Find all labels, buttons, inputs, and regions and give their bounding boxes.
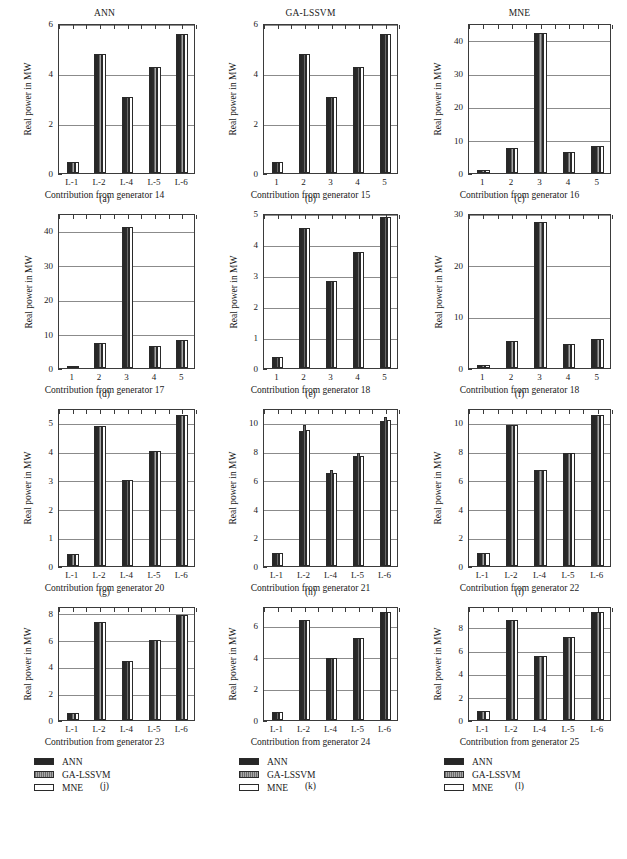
x-tick-label: L-4 bbox=[324, 570, 337, 580]
bar-mne bbox=[129, 97, 133, 173]
x-tick-label: 3 bbox=[537, 372, 542, 382]
y-tick-mark bbox=[58, 174, 62, 175]
y-tick-label: 2 bbox=[209, 533, 258, 543]
bar-mne bbox=[360, 456, 364, 566]
x-tick-label: L-1 bbox=[65, 570, 78, 580]
bar-series-container bbox=[264, 410, 397, 566]
bar-mne bbox=[333, 281, 337, 368]
bar-mne bbox=[157, 346, 161, 368]
y-tick-label: 8 bbox=[412, 447, 463, 457]
bar-series-container bbox=[264, 215, 397, 368]
chart-panel-h: Real power in MW0246810L-1L-2L-4L-5L-6Co… bbox=[209, 405, 412, 603]
x-tick-label: 5 bbox=[179, 372, 184, 382]
y-tick-label: 30 bbox=[412, 69, 463, 79]
x-tick-label: L-6 bbox=[175, 177, 188, 187]
x-tick-label: 4 bbox=[355, 177, 360, 187]
bar-group bbox=[591, 25, 603, 173]
y-tick-label: 1 bbox=[0, 533, 53, 543]
bar-group bbox=[176, 215, 188, 368]
bar-mne bbox=[157, 67, 161, 173]
bar-group bbox=[94, 410, 106, 566]
bar-mne bbox=[485, 553, 489, 566]
top-tick-mark bbox=[612, 25, 613, 29]
bar-mne bbox=[102, 343, 106, 368]
bar-mne bbox=[102, 54, 106, 174]
bar-mne bbox=[485, 365, 489, 368]
legend-label: ANN bbox=[267, 757, 288, 767]
y-tick-label: 0 bbox=[412, 562, 463, 572]
y-tick-label: 10 bbox=[0, 330, 53, 340]
y-tick-label: 8 bbox=[412, 623, 463, 633]
bar-series-container bbox=[469, 215, 610, 368]
x-tick-label: L-5 bbox=[351, 724, 364, 734]
plot-area bbox=[468, 24, 611, 174]
x-tick-label: L-2 bbox=[504, 570, 517, 580]
legend-item-ga-lssvm: GA-LSSVM bbox=[444, 768, 521, 781]
bar-mne bbox=[333, 658, 337, 720]
bar-group bbox=[506, 215, 518, 368]
bar-mne bbox=[129, 227, 133, 368]
bar-mne bbox=[571, 637, 575, 720]
y-tick-label: 2 bbox=[0, 689, 53, 699]
bar-group bbox=[122, 215, 134, 368]
bar-group bbox=[380, 608, 392, 720]
chart-panel-e: Real power in MW01234512345Contribution … bbox=[209, 210, 412, 405]
x-tick-label: L-2 bbox=[93, 177, 106, 187]
y-tick-label: 6 bbox=[0, 19, 53, 29]
legend-label: GA-LSSVM bbox=[267, 770, 316, 780]
bar-group bbox=[353, 608, 365, 720]
bar-group bbox=[534, 215, 546, 368]
bar-group bbox=[272, 215, 284, 368]
y-tick-label: 5 bbox=[209, 209, 258, 219]
bar-mne bbox=[543, 656, 547, 720]
y-tick-label: 10 bbox=[412, 312, 463, 322]
bar-group bbox=[591, 410, 603, 566]
y-tick-label: 4 bbox=[209, 240, 258, 250]
chart-panel-d: Real power in MW01020304012345Contributi… bbox=[0, 210, 209, 405]
bar-mne bbox=[387, 217, 391, 368]
bar-series-container bbox=[59, 215, 194, 368]
bar-group bbox=[534, 608, 546, 720]
x-tick-label: 3 bbox=[328, 372, 333, 382]
bar-mne bbox=[543, 470, 547, 566]
bar-group bbox=[380, 25, 392, 173]
bar-group bbox=[591, 608, 603, 720]
y-axis-label: Real power in MW bbox=[226, 214, 240, 369]
chart-panel-c: MNEReal power in MW01020304012345Contrib… bbox=[412, 8, 627, 210]
y-tick-label: 0 bbox=[209, 364, 258, 374]
bar-group bbox=[67, 25, 79, 173]
legend-label: ANN bbox=[62, 757, 83, 767]
y-tick-mark bbox=[468, 369, 472, 370]
y-tick-label: 0 bbox=[209, 716, 258, 726]
bar-mne bbox=[279, 712, 283, 720]
bar-mne bbox=[571, 152, 575, 173]
bar-group bbox=[591, 215, 603, 368]
chart-panel-i: Real power in MW0246810L-1L-2L-4L-5L-6Co… bbox=[412, 405, 627, 603]
bar-group bbox=[176, 25, 188, 173]
x-tick-label: 4 bbox=[566, 372, 571, 382]
bar-mne bbox=[184, 34, 188, 173]
plot-area bbox=[468, 214, 611, 369]
panel-caption: (j) bbox=[0, 781, 209, 791]
chart-panel-l: Real power in MW02468L-1L-2L-4L-5L-6Cont… bbox=[412, 603, 627, 803]
x-tick-label: 3 bbox=[537, 177, 542, 187]
y-axis-label: Real power in MW bbox=[21, 24, 35, 174]
bar-mne bbox=[75, 366, 79, 368]
bar-mne bbox=[333, 97, 337, 173]
figure-panel-grid: ANNReal power in MW0246L-1L-2L-4L-5L-6Co… bbox=[0, 0, 627, 859]
legend-label: ANN bbox=[472, 757, 493, 767]
y-axis-label: Real power in MW bbox=[431, 409, 445, 567]
bar-group bbox=[67, 410, 79, 566]
y-tick-label: 20 bbox=[0, 295, 53, 305]
y-tick-label: 10 bbox=[209, 418, 258, 428]
bar-group bbox=[94, 25, 106, 173]
bar-mne bbox=[184, 415, 188, 566]
x-tick-label: L-4 bbox=[533, 570, 546, 580]
bar-group bbox=[563, 215, 575, 368]
y-tick-label: 2 bbox=[0, 505, 53, 515]
bar-series-container bbox=[264, 608, 397, 720]
panel-caption: (a) bbox=[0, 194, 209, 204]
y-tick-label: 0 bbox=[0, 364, 53, 374]
top-tick-mark bbox=[196, 215, 197, 219]
x-axis-label: Contribution from generator 23 bbox=[0, 737, 209, 747]
